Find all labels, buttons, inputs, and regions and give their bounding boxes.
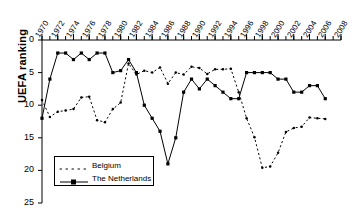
data-point (143, 104, 146, 107)
data-point (316, 84, 319, 87)
data-point (127, 62, 130, 65)
data-point (198, 67, 201, 70)
data-point (159, 66, 162, 69)
data-point (300, 91, 303, 94)
data-point (64, 51, 67, 54)
legend-swatch-solid-square (59, 173, 89, 183)
data-point (135, 71, 138, 74)
data-point (103, 51, 106, 54)
data-point (175, 71, 178, 74)
data-point (49, 116, 52, 119)
data-point (237, 91, 240, 94)
data-point (276, 78, 279, 81)
data-point (166, 162, 169, 165)
data-point (206, 73, 209, 76)
data-point (119, 69, 122, 72)
data-point (104, 121, 107, 124)
data-point (56, 51, 59, 54)
data-point (143, 69, 146, 72)
data-point (269, 71, 272, 74)
data-point (96, 119, 99, 122)
data-point (88, 58, 91, 61)
data-point (253, 71, 256, 74)
data-point (40, 117, 43, 120)
data-point (316, 117, 319, 120)
legend-swatch-dotted (59, 160, 89, 170)
data-point (72, 108, 75, 111)
data-point (308, 116, 311, 119)
data-point (111, 71, 114, 74)
data-point (324, 118, 327, 121)
data-point (230, 67, 233, 70)
data-point (182, 73, 185, 76)
data-point (221, 91, 224, 94)
legend-label-netherlands: The Netherlands (92, 174, 151, 183)
data-point (222, 68, 225, 71)
y-tick-label: 0 (18, 35, 34, 44)
uefa-ranking-chart: UEFA ranking Belgium The Netherlands 051… (0, 0, 354, 218)
data-point (72, 58, 75, 61)
data-point (80, 51, 83, 54)
data-point (261, 71, 264, 74)
y-tick-label: 15 (18, 133, 34, 142)
data-point (245, 71, 248, 74)
data-point (119, 101, 122, 104)
y-tick-label: 25 (18, 198, 34, 207)
data-point (284, 78, 287, 81)
data-point (151, 117, 154, 120)
data-point (229, 97, 232, 100)
data-point (308, 84, 311, 87)
data-point (158, 130, 161, 133)
data-point (88, 95, 91, 98)
data-point (237, 97, 240, 100)
data-point (95, 51, 98, 54)
data-point (190, 65, 193, 68)
data-point (300, 125, 303, 128)
data-point (48, 78, 51, 81)
data-point (253, 136, 256, 139)
data-point (261, 167, 264, 170)
data-point (56, 110, 59, 113)
legend-item-netherlands: The Netherlands (59, 172, 151, 184)
data-point (206, 78, 209, 81)
data-point (112, 108, 115, 111)
legend: Belgium The Netherlands (54, 156, 154, 186)
data-point (214, 84, 217, 87)
data-point (80, 96, 83, 99)
data-point (190, 78, 193, 81)
data-point (182, 91, 185, 94)
series-line-the-netherlands (42, 53, 325, 164)
data-point (277, 152, 280, 155)
y-tick-label: 10 (18, 100, 34, 109)
legend-label-belgium: Belgium (92, 161, 121, 170)
data-point (269, 165, 272, 168)
data-point (285, 131, 288, 134)
data-point (214, 68, 217, 71)
y-tick-label: 20 (18, 165, 34, 174)
y-tick-label: 5 (18, 68, 34, 77)
data-point (167, 82, 170, 85)
data-point (127, 58, 130, 61)
data-point (324, 97, 327, 100)
data-point (292, 91, 295, 94)
data-point (174, 136, 177, 139)
data-point (293, 127, 296, 130)
data-point (64, 109, 67, 112)
data-point (245, 117, 248, 120)
data-point (151, 71, 154, 74)
data-point (41, 99, 44, 102)
legend-item-belgium: Belgium (59, 159, 121, 171)
data-point (198, 87, 201, 90)
